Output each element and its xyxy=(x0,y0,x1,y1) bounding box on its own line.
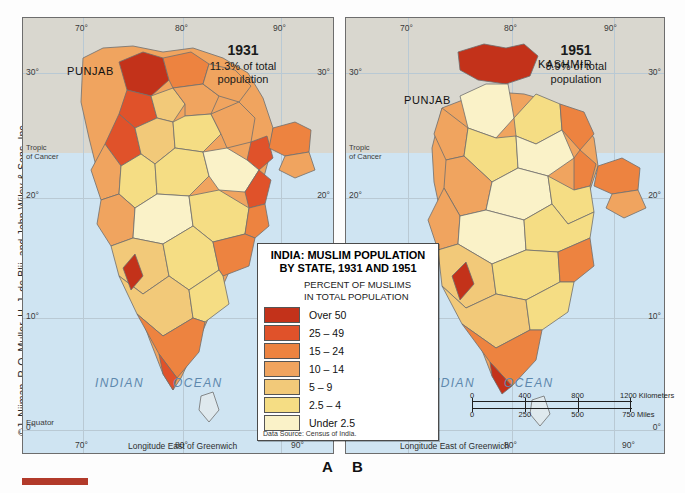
axis-label-a: Longitude East of Greenwich xyxy=(128,441,237,451)
legend-item[interactable]: 2.5 – 4 xyxy=(264,396,438,414)
legend-item[interactable]: 10 – 14 xyxy=(264,360,438,378)
legend-item[interactable]: 25 – 49 xyxy=(264,324,438,342)
ocean-label-ocean-b: OCEAN xyxy=(504,376,554,390)
lon-tick-90-bot-b: 90° xyxy=(622,440,635,450)
panel-title-1931: 1931 11.3% of total population xyxy=(173,44,313,86)
lat-tick-20-b-right: 20° xyxy=(648,190,661,200)
label-punjab-1931: PUNJAB xyxy=(67,65,114,77)
ocean-label-indian-a: INDIAN xyxy=(95,376,144,390)
panel-caption-a: A xyxy=(322,458,333,475)
legend-label: Over 50 xyxy=(309,309,346,321)
lat-tick-30-a: 30° xyxy=(26,67,39,77)
legend-subtitle-line2: IN TOTAL POPULATION xyxy=(304,291,438,302)
label-kashmir-1951: KASHMIR xyxy=(538,58,592,70)
scale-bar-km-labels: 0 400 800 1200 Kilometers xyxy=(472,391,632,401)
map-legend[interactable]: INDIA: MUSLIM POPULATION BY STATE, 1931 … xyxy=(257,243,439,441)
legend-label: 15 – 24 xyxy=(309,345,344,357)
legend-label: 25 – 49 xyxy=(309,327,344,339)
lat-tick-30-b-right: 30° xyxy=(648,67,661,77)
scale-bar-km-line xyxy=(472,401,632,402)
legend-swatch-2-5-4 xyxy=(264,397,300,413)
legend-swatch-10-14 xyxy=(264,361,300,377)
label-punjab-1951: PUNJAB xyxy=(404,94,451,106)
equator-label-a: Equator xyxy=(26,418,54,427)
axis-label-b: Longitude East of Greenwich xyxy=(400,441,509,451)
legend-label: 2.5 – 4 xyxy=(309,399,341,411)
tropic-of-cancer-label-a: Tropic of Cancer xyxy=(26,144,59,161)
lon-tick-70-top-b: 70° xyxy=(400,23,413,33)
legend-swatch-15-24 xyxy=(264,343,300,359)
lat-tick-0-b-right: 0° xyxy=(653,422,661,432)
legend-swatch-25-49 xyxy=(264,325,300,341)
lat-tick-20-b: 20° xyxy=(349,190,362,200)
lon-tick-90-bot-a: 90° xyxy=(291,440,304,450)
legend-item[interactable]: Over 50 xyxy=(264,306,438,324)
tropic-of-cancer-label-b: Tropic of Cancer xyxy=(349,144,382,161)
map-figure: ©J. Nijman, P. O. Muller, H. J. de Blij,… xyxy=(0,0,685,493)
scale-bar-mi-labels: 0 250 500 750 Miles xyxy=(472,410,632,420)
legend-swatch-5-9 xyxy=(264,379,300,395)
lat-tick-30-a-right: 30° xyxy=(317,67,330,77)
scale-bar-mi-line xyxy=(472,408,632,409)
lon-tick-90-top-b: 90° xyxy=(604,23,617,33)
footer-accent-bar xyxy=(22,478,88,485)
lon-tick-70-top-a: 70° xyxy=(75,23,88,33)
lat-tick-10-b-right: 10° xyxy=(648,311,661,321)
lat-tick-20-a: 20° xyxy=(26,190,39,200)
legend-label: Under 2.5 xyxy=(309,417,355,429)
lon-tick-80-top-a: 80° xyxy=(175,23,188,33)
lon-tick-70-bot-a: 70° xyxy=(75,440,88,450)
legend-subtitle-line1: PERCENT OF MUSLIMS xyxy=(304,279,438,290)
lon-tick-80-top-b: 80° xyxy=(504,23,517,33)
legend-swatch-over-50 xyxy=(264,307,300,323)
lon-tick-90-top-a: 90° xyxy=(273,23,286,33)
ocean-label-ocean-a: OCEAN xyxy=(173,376,223,390)
lat-tick-20-a-right: 20° xyxy=(317,190,330,200)
scale-bar: 0 400 800 1200 Kilometers 0 250 500 750 … xyxy=(472,391,632,420)
legend-label: 5 – 9 xyxy=(309,381,332,393)
legend-item[interactable]: 15 – 24 xyxy=(264,342,438,360)
legend-label: 10 – 14 xyxy=(309,363,344,375)
legend-swatch-under-2-5 xyxy=(264,415,300,431)
lat-tick-30-b: 30° xyxy=(349,67,362,77)
legend-title: INDIA: MUSLIM POPULATION BY STATE, 1931 … xyxy=(262,249,434,275)
lat-tick-10-a: 10° xyxy=(26,311,39,321)
panel-caption-b: B xyxy=(352,458,363,475)
legend-source: Data Source: Census of India. xyxy=(263,430,356,437)
legend-item[interactable]: 5 – 9 xyxy=(264,378,438,396)
